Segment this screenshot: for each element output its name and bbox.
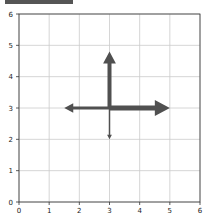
x-tick-label: 3 bbox=[107, 207, 111, 215]
arrow-down-icon bbox=[107, 108, 112, 139]
y-tick-label: 4 bbox=[9, 73, 14, 81]
arrow-up-icon bbox=[103, 52, 116, 108]
y-tick-label: 5 bbox=[9, 42, 13, 50]
x-tick-label: 5 bbox=[168, 207, 172, 215]
y-tick-label: 3 bbox=[9, 105, 13, 113]
y-tick-label: 2 bbox=[9, 136, 13, 144]
x-tick-label: 2 bbox=[77, 207, 81, 215]
x-tick-label: 6 bbox=[198, 207, 203, 215]
quiver-chart: 01234560123456 bbox=[0, 0, 208, 217]
y-tick-label: 1 bbox=[9, 167, 13, 175]
y-tick-label: 0 bbox=[9, 199, 13, 207]
x-tick-label: 1 bbox=[47, 207, 51, 215]
x-tick-label: 4 bbox=[137, 207, 142, 215]
arrow-left-icon bbox=[64, 103, 109, 113]
y-tick-label: 6 bbox=[9, 11, 14, 19]
x-tick-label: 0 bbox=[17, 207, 21, 215]
